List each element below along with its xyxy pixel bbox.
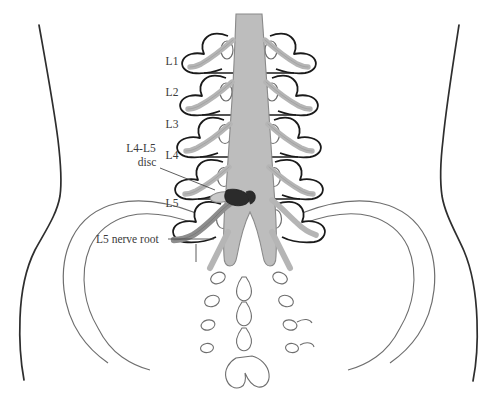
torso-outline-right (441, 25, 478, 381)
sacrum-group (200, 270, 314, 388)
labels-group: L1 L2 L3 L4 L5 L4-L5 disc L5 nerve root (96, 55, 179, 245)
sacral-foramen-left-2 (203, 293, 221, 308)
lumbar-spine-figure: L1 L2 L3 L4 L5 L4-L5 disc L5 nerve root (0, 0, 498, 397)
sacral-foramen-right-3 (282, 318, 298, 331)
sacral-lateral-hook-right-1 (297, 319, 312, 323)
annotation-disc-line2: disc (138, 156, 157, 168)
annotation-disc-line1: L4-L5 (126, 142, 156, 154)
sacral-spinous-1 (237, 277, 252, 301)
sacral-foramen-left-4 (200, 343, 214, 354)
coccyx (226, 356, 270, 388)
torso-outline-left (20, 25, 61, 380)
sacral-foramen-left-1 (209, 270, 227, 286)
vertebra-label-l4: L4 (166, 149, 179, 161)
vertebra-label-l1: L1 (166, 55, 179, 67)
sacral-foramen-left-3 (200, 318, 216, 331)
vertebra-label-l3: L3 (166, 118, 179, 130)
sacral-foramen-right-4 (285, 343, 299, 354)
vertebra-label-l2: L2 (166, 86, 179, 98)
right-acetabulum-border (348, 328, 400, 370)
anatomy-illustration: L1 L2 L3 L4 L5 L4-L5 disc L5 nerve root (0, 0, 498, 397)
sacral-spinous-2 (237, 302, 252, 326)
sacral-foramen-right-2 (277, 293, 295, 308)
sacral-foramen-right-1 (271, 270, 289, 286)
annotation-nerve-root: L5 nerve root (96, 233, 159, 245)
vertebra-label-l5: L5 (166, 197, 179, 209)
sacral-lateral-hook-right-2 (300, 343, 314, 347)
sacral-spinous-3 (237, 328, 252, 351)
left-acetabulum-border (98, 328, 150, 370)
